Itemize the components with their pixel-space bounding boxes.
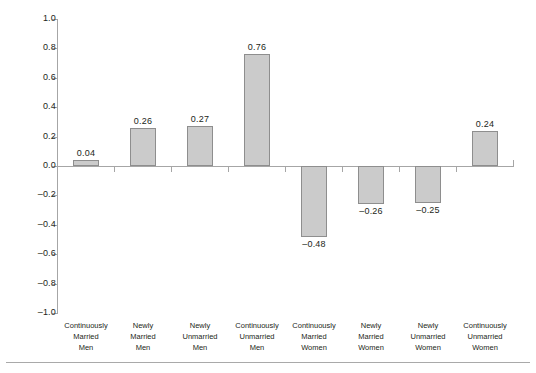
category-label-line: Women	[451, 342, 519, 353]
bar-chart-plot: 1.00.80.60.40.20.0–0.2–0.4–0.6–0.8–1.0 0…	[0, 0, 536, 373]
y-axis-tick-label: –0.8	[16, 279, 56, 288]
x-axis-tick	[171, 167, 172, 172]
x-axis-tick	[399, 167, 400, 172]
bar-value-label: 0.27	[170, 114, 230, 124]
category-label: ContinuouslyUnmarriedWomen	[451, 320, 519, 353]
y-axis-tick-label: 0.8	[16, 43, 56, 52]
bar	[301, 166, 327, 237]
y-axis-tick-label: 1.0	[16, 14, 56, 23]
y-axis-tick-label: –0.4	[16, 220, 56, 229]
figure: 1.00.80.60.40.20.0–0.2–0.4–0.6–0.8–1.0 0…	[0, 0, 536, 373]
bar	[358, 166, 384, 204]
bar	[73, 160, 99, 166]
x-axis-tick	[513, 160, 514, 167]
y-axis-tick-label: 0.2	[16, 132, 56, 141]
bar-value-label: –0.26	[341, 206, 401, 216]
bar	[187, 126, 213, 166]
bottom-divider-rule	[6, 362, 530, 363]
bar-value-label: –0.25	[398, 205, 458, 215]
x-axis-tick	[114, 167, 115, 172]
y-axis-tick-label: 0.4	[16, 102, 56, 111]
y-axis-tick-label: 0.6	[16, 73, 56, 82]
bar	[415, 166, 441, 203]
bar	[130, 128, 156, 166]
x-axis-tick	[285, 167, 286, 172]
x-axis-tick	[228, 167, 229, 172]
y-axis-tick-label: –1.0	[16, 308, 56, 317]
x-axis-tick	[342, 167, 343, 172]
y-axis-tick-label: –0.2	[16, 190, 56, 199]
bar-value-label: –0.48	[284, 239, 344, 249]
bar	[472, 131, 498, 166]
bar-value-label: 0.24	[455, 119, 515, 129]
category-label-line: Unmarried	[451, 331, 519, 342]
category-label-line: Continuously	[451, 320, 519, 331]
x-axis-tick	[456, 167, 457, 172]
bar-value-label: 0.26	[113, 116, 173, 126]
bar	[244, 54, 270, 166]
x-axis-tick	[57, 167, 58, 172]
bar-value-label: 0.04	[56, 148, 116, 158]
bar-value-label: 0.76	[227, 42, 287, 52]
y-axis-tick-label: –0.6	[16, 249, 56, 258]
y-axis-tick-label: 0.0	[16, 161, 56, 170]
